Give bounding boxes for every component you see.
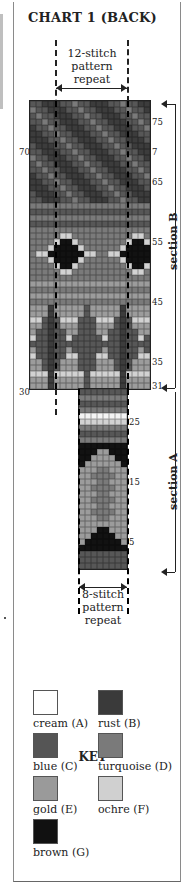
color-swatch [33,776,58,801]
section-b-bottom-arrow [167,388,175,389]
section-a-bottom-arrow [167,572,175,573]
key-label: rust (B) [98,717,178,730]
color-swatch [98,690,123,715]
section-b-top-arrow [167,104,175,105]
key-item-g: brown (G) [33,819,113,859]
repeat-line-a-right [127,389,129,614]
section-a-label: section A [167,453,180,510]
repeat-line-b-right [127,101,129,389]
repeat-top-arrow [56,88,127,89]
color-swatch [33,690,58,715]
color-swatch [98,776,123,801]
chart-grid-section-a [79,389,127,569]
row-number-right: 65 [152,178,163,187]
repeat-top-dash-right [127,40,129,102]
row-number-left: 70 [19,148,30,157]
section-b-label: section B [167,212,180,270]
chart-title: CHART 1 (BACK) [0,10,185,25]
row-number-right: 35 [152,358,163,367]
color-swatch [98,733,123,758]
repeat-bottom-label: 8-stitch pattern repeat [78,588,128,627]
repeat-line-a-left [78,389,80,614]
row-number-right: 55 [152,238,163,247]
key-label: ochre (F) [98,803,178,816]
page-mark [4,617,6,619]
row-number-left: 30 [19,388,30,397]
key-label: brown (G) [33,846,113,859]
key-item-d: turquoise (D) [98,733,178,773]
color-swatch [33,733,58,758]
repeat-top-label: 12-stitch pattern repeat [58,47,126,86]
stitch-cell [144,383,150,389]
key-item-f: ochre (F) [98,776,178,816]
row-number-right: 45 [152,298,163,307]
row-number-right: 75 [152,118,163,127]
repeat-line-b-left [55,101,57,389]
chart-grid-section-b [30,101,150,389]
key-item-b: rust (B) [98,690,178,730]
row-number-right: 25 [129,418,140,427]
row-number-right: 7 [152,148,157,157]
row-number-right: 5 [129,538,134,547]
key-label: turquoise (D) [98,760,178,773]
row-number-right: 15 [129,478,140,487]
page-edge-rule [0,14,3,109]
color-swatch [33,819,58,844]
